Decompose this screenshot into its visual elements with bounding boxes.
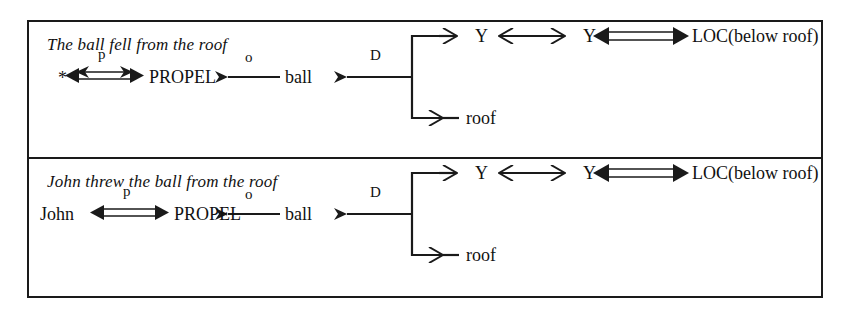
node-object: ball [285,68,312,86]
figure-frame: The ball fell from the roof [27,20,823,298]
direction-bracket [412,173,444,255]
arc-label-o: o [245,187,253,202]
arc-label-d: D [370,185,381,200]
node-object: ball [285,205,312,223]
arc-label-p: p [123,184,131,199]
node-act: PROPEL [149,68,216,86]
node-source: roof [466,109,496,127]
link-y2-loc [593,27,689,45]
node-direction-2: Y [583,27,596,45]
panel-john-threw: John threw the ball from the roof [29,159,821,296]
cd-diagram: Y : open heads both ends --> * PROPEL [29,22,821,157]
figure-root: The ball fell from the roof [0,0,851,313]
direction-bracket [412,36,444,118]
node-direction-1: Y [475,27,488,45]
cd-diagram: John PROPEL ball Y Y LOC(below roof) roo… [29,159,821,296]
arc-label-p: p [98,47,106,62]
link-actor-act [90,205,169,220]
node-actor: * [58,69,67,87]
node-direction-1: Y [475,164,488,182]
node-act: PROPEL [174,205,241,223]
panel-the-ball-fell: The ball fell from the roof [29,22,821,159]
link-y2-loc [593,164,689,182]
node-source: roof [466,246,496,264]
node-actor: John [40,205,74,223]
node-location: LOC(below roof) [692,164,818,182]
link-actor-act [65,68,144,83]
node-direction-2: Y [583,164,596,182]
arc-label-o: o [245,50,253,65]
node-location: LOC(below roof) [692,27,818,45]
arc-label-d: D [370,48,381,63]
